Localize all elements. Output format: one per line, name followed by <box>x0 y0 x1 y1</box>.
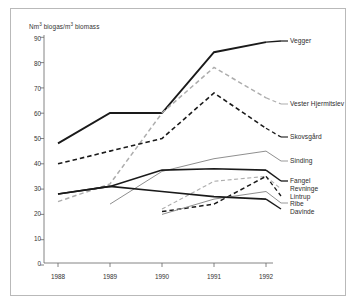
series-line-vester-hjermitslev <box>58 67 266 201</box>
series-label-skovsgaard: Skovsgård <box>290 133 322 140</box>
chart-frame: Nm3 biogas/m3 biomass 90 80 70 60 50 40 … <box>10 8 346 296</box>
series-label-davinde: Davinde <box>290 208 315 215</box>
series-label-vegger: Vegger <box>290 37 311 44</box>
series-label-revninge: Revninge <box>290 185 318 192</box>
series-label-sinding: Sinding <box>290 157 312 164</box>
series-label-vester-hjermitslev: Vester Hjermitslev <box>290 100 344 107</box>
y-axis-ticks <box>40 37 44 265</box>
series-label-fangel: Fangel <box>290 177 310 184</box>
series-line-skovsgaard <box>58 93 266 164</box>
series-label-lintrup: Lintrup <box>290 193 311 200</box>
series-label-ribe: Ribe <box>290 200 304 207</box>
series-line-vegger <box>58 42 266 143</box>
series-line-sinding <box>110 151 266 204</box>
axis-lines <box>44 35 273 263</box>
x-axis-ticks <box>58 263 266 267</box>
label-leader-lines <box>266 41 288 209</box>
chart-plot-area <box>11 9 347 297</box>
chart-figure: Nm3 biogas/m3 biomass 90 80 70 60 50 40 … <box>0 0 356 305</box>
series-line-ribe <box>162 192 266 215</box>
